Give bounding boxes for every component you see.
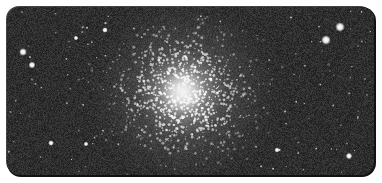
cluster-photo: Black-and-white photograph of a dense gl… <box>7 7 374 175</box>
starfield-canvas <box>7 7 374 175</box>
